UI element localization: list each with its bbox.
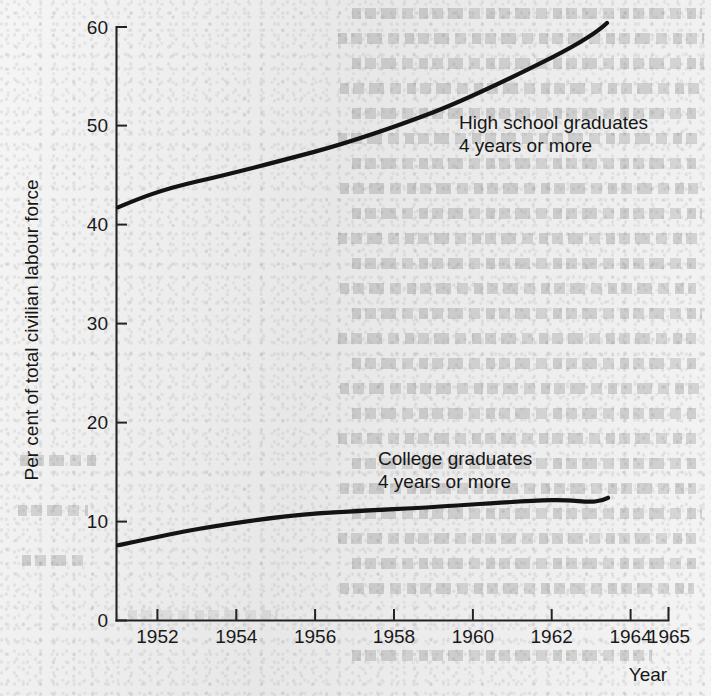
y-tick-label-10: 10: [87, 511, 108, 532]
annotation-high-school-line2: 4 years or more: [459, 135, 592, 156]
y-tick-marks: [116, 27, 127, 621]
x-tick-labels: 1952 1954 1956 1958 1960 1962 1964 1965: [136, 626, 690, 647]
x-tick-label-1958: 1958: [373, 626, 415, 647]
annotation-college-line2: 4 years or more: [378, 471, 511, 492]
annotation-high-school-line1: High school graduates: [459, 112, 648, 133]
x-tick-label-1960: 1960: [452, 626, 494, 647]
y-axis-title: Per cent of total civilian labour force: [21, 180, 42, 481]
y-tick-label-40: 40: [87, 214, 108, 235]
annotation-high-school: High school graduates 4 years or more: [459, 112, 648, 156]
x-axis-title: Year: [629, 664, 668, 685]
annotation-college-line1: College graduates: [378, 448, 532, 469]
y-tick-label-20: 20: [87, 412, 108, 433]
y-tick-label-0: 0: [97, 610, 108, 631]
x-axis-line: [117, 608, 669, 621]
x-tick-label-1965: 1965: [648, 626, 690, 647]
x-tick-label-1952: 1952: [136, 626, 178, 647]
annotation-college: College graduates 4 years or more: [378, 448, 532, 492]
y-tick-label-60: 60: [87, 17, 108, 38]
y-tick-label-30: 30: [87, 313, 108, 334]
figure-page: 0 10 20 30 40 50 60 1952 1954 1956 1958 …: [0, 0, 711, 696]
y-tick-label-50: 50: [87, 115, 108, 136]
line-chart: 0 10 20 30 40 50 60 1952 1954 1956 1958 …: [0, 0, 711, 696]
x-tick-label-1962: 1962: [531, 626, 573, 647]
x-tick-label-1954: 1954: [215, 626, 258, 647]
y-tick-labels: 0 10 20 30 40 50 60: [87, 17, 108, 631]
x-tick-marks: [157, 609, 630, 621]
x-tick-label-1964: 1964: [609, 626, 652, 647]
x-tick-label-1956: 1956: [294, 626, 336, 647]
series-line-college: [118, 498, 608, 546]
